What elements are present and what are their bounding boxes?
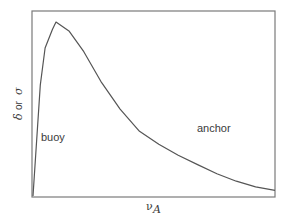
annotation-buoy: buoy <box>41 131 65 143</box>
y-axis-delta: δ <box>12 113 25 120</box>
y-axis-or: or <box>13 100 24 110</box>
annotation-anchor: anchor <box>197 122 231 134</box>
x-axis-symbol: ν <box>146 200 153 213</box>
y-axis-label: δ or σ <box>12 87 25 120</box>
x-axis-subscript: A <box>152 203 161 216</box>
plot-frame <box>32 11 275 197</box>
y-axis-sigma: σ <box>12 87 25 95</box>
chart: buoy anchor ν A δ or σ <box>0 0 288 220</box>
data-curve <box>33 22 275 196</box>
x-axis-label: ν A <box>146 200 161 216</box>
